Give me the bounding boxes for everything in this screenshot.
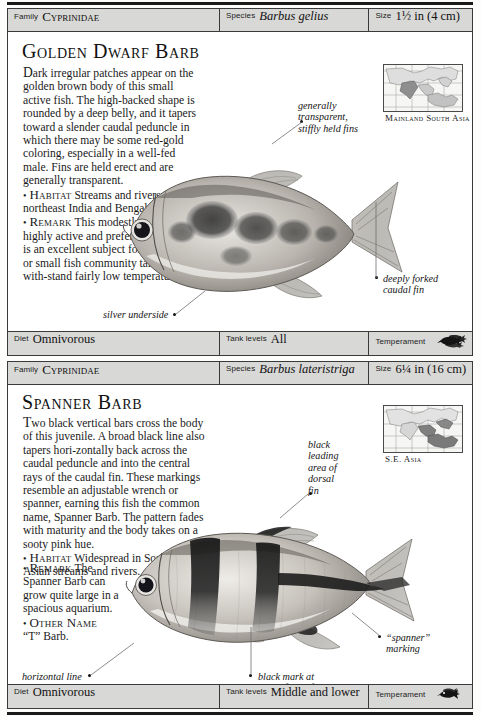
habitat-label: Habitat bbox=[29, 187, 71, 202]
entry-header-row: Family Cyprinidae Species Barbus gelius … bbox=[8, 9, 472, 32]
family-cell: Family Cyprinidae bbox=[8, 9, 219, 31]
locator-map-graphic bbox=[384, 406, 462, 452]
species-cell: Species Barbus gelius bbox=[219, 9, 368, 31]
entry-header-row: Family Cyprinidae Species Barbus lateris… bbox=[8, 362, 472, 385]
locator-map-graphic bbox=[384, 65, 462, 111]
remark-bullet: • bbox=[23, 563, 27, 574]
callout-spanner-marking: “spanner” marking bbox=[386, 632, 430, 655]
family-value: Cyprinidae bbox=[42, 9, 99, 25]
species-cell: Species Barbus lateristriga bbox=[219, 362, 368, 384]
remark-block: • Remark The Spanner Barb can grow quite… bbox=[23, 561, 128, 643]
diet-cell: Diet Omnivorous bbox=[8, 332, 219, 355]
other-name-label: Other Name bbox=[29, 615, 97, 630]
size-label: Size bbox=[375, 364, 391, 373]
remark-label: Remark bbox=[29, 560, 71, 575]
fish-shoal-icon bbox=[437, 334, 467, 346]
callout-black-leading-area-of-dorsal-fin: black leading area of dorsal fin bbox=[308, 439, 339, 496]
page-title: Spanner Barb bbox=[22, 391, 142, 414]
other-name-text: “T” Barb. bbox=[23, 630, 69, 643]
leader-line-spanner bbox=[350, 611, 382, 639]
remark-bullet: • bbox=[23, 217, 27, 228]
entry-footer-row: Diet Omnivorous Tank levels Middle and l… bbox=[8, 684, 472, 708]
size-value: 1½ in (4 cm) bbox=[395, 9, 460, 24]
callout-generally-transparent-fins: generally transparent, stiffly held fins bbox=[298, 100, 358, 134]
diet-value: Omnivorous bbox=[33, 685, 96, 700]
family-label: Family bbox=[14, 12, 38, 21]
diet-label: Diet bbox=[14, 334, 29, 343]
tank-levels-cell: Tank levels Middle and lower bbox=[219, 685, 368, 708]
callout-black-mark-at-base-of-anal-fin: black mark at base of anal fin bbox=[258, 671, 321, 684]
diet-cell: Diet Omnivorous bbox=[8, 685, 219, 708]
species-value: Barbus gelius bbox=[259, 9, 328, 24]
locator-map bbox=[383, 405, 463, 453]
species-label: Species bbox=[226, 364, 255, 373]
leader-line-anal bbox=[249, 627, 255, 677]
leader-line-fins bbox=[270, 120, 304, 146]
entry-footer-row: Diet Omnivorous Tank levels All Temperam… bbox=[8, 331, 472, 355]
diet-value: Omnivorous bbox=[33, 332, 96, 347]
locator-map-caption: S.E. Asia bbox=[385, 454, 422, 465]
temperament-label: Temperament bbox=[375, 690, 425, 699]
family-cell: Family Cyprinidae bbox=[8, 362, 219, 384]
fish-illustration-spanner-barb bbox=[116, 515, 416, 680]
tank-levels-label: Tank levels bbox=[226, 687, 267, 696]
tank-levels-cell: Tank levels All bbox=[219, 332, 368, 355]
locator-map-caption: Mainland South Asia bbox=[385, 113, 470, 124]
diet-label: Diet bbox=[14, 687, 29, 696]
top-rule bbox=[7, 2, 473, 5]
callout-horizontal-line-continues-into-caudal-fin: horizontal line continues into caudal fi… bbox=[22, 671, 82, 684]
page-title: Golden Dwarf Barb bbox=[22, 40, 200, 63]
species-entry-golden-dwarf-barb: Family Cyprinidae Species Barbus gelius … bbox=[7, 8, 473, 356]
entry-body: Golden Dwarf Barb Dark irregular patches… bbox=[8, 32, 472, 331]
leader-line-horizontal bbox=[90, 641, 136, 677]
book-page: Family Cyprinidae Species Barbus gelius … bbox=[0, 0, 481, 717]
habitat-bullet: • bbox=[23, 190, 27, 201]
other-name-bullet: • bbox=[23, 618, 27, 629]
temperament-label: Temperament bbox=[375, 337, 425, 346]
locator-map bbox=[383, 64, 463, 112]
dropcap: D bbox=[23, 65, 33, 80]
leader-line-underside bbox=[175, 290, 207, 316]
species-entry-spanner-barb: Family Cyprinidae Species Barbus lateris… bbox=[7, 361, 473, 709]
fish-pair-icon bbox=[437, 687, 467, 699]
tank-levels-value: Middle and lower bbox=[271, 685, 360, 700]
tank-levels-label: Tank levels bbox=[226, 334, 267, 343]
species-value: Barbus lateristriga bbox=[259, 362, 355, 377]
species-label: Species bbox=[226, 11, 255, 20]
fish-illustration-golden-dwarf-barb bbox=[116, 124, 406, 331]
temperament-cell: Temperament bbox=[368, 685, 472, 708]
temperament-cell: Temperament bbox=[368, 332, 472, 355]
size-label: Size bbox=[375, 11, 391, 20]
callout-silver-underside: silver underside bbox=[103, 309, 168, 320]
entry-body: Spanner Barb Two black vertical bars cro… bbox=[8, 385, 472, 684]
leader-line-dorsal bbox=[278, 492, 310, 520]
size-cell: Size 6¼ in (16 cm) bbox=[368, 362, 472, 384]
size-value: 6¼ in (16 cm) bbox=[395, 362, 466, 377]
tank-levels-value: All bbox=[271, 332, 287, 347]
family-label: Family bbox=[14, 365, 38, 374]
remark-label: Remark bbox=[29, 214, 71, 229]
size-cell: Size 1½ in (4 cm) bbox=[368, 9, 472, 31]
leader-line-caudal bbox=[374, 202, 380, 280]
bottom-rule bbox=[7, 712, 473, 715]
callout-deeply-forked-caudal-fin: deeply forked caudal fin bbox=[383, 273, 438, 296]
family-value: Cyprinidae bbox=[42, 362, 99, 378]
